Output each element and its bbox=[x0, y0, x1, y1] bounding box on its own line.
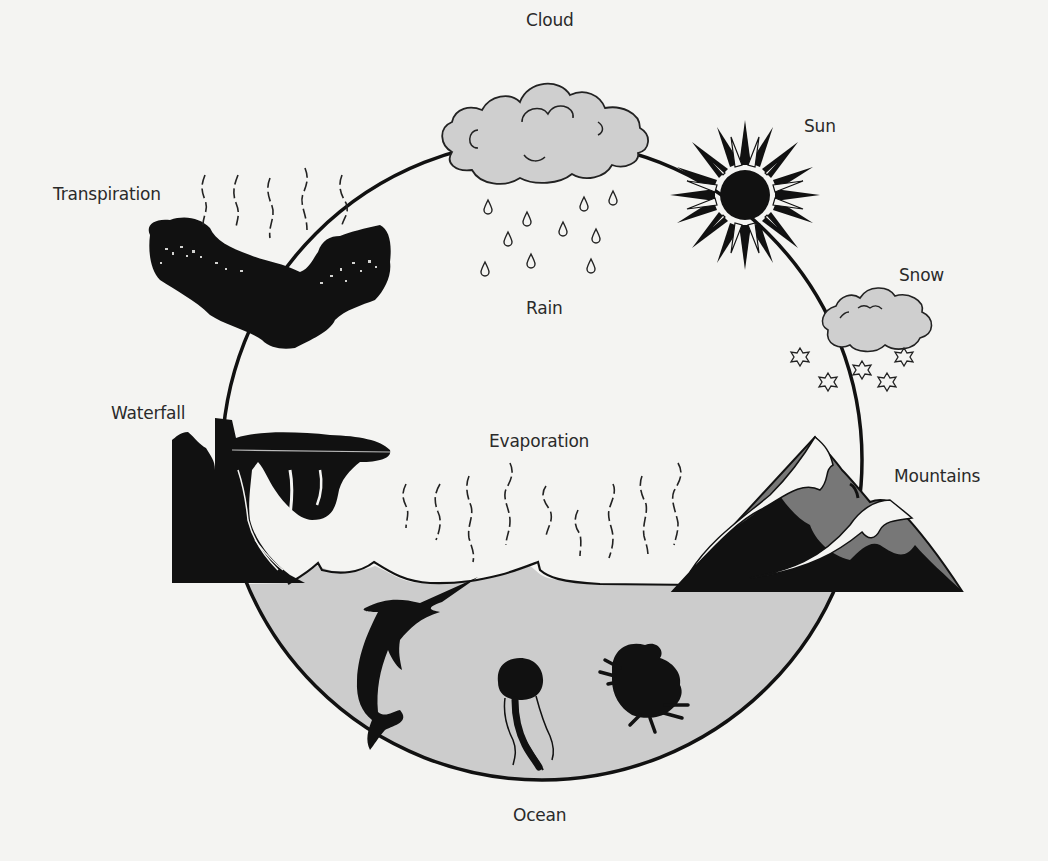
label-ocean: Ocean bbox=[513, 805, 566, 825]
waterfall-icon bbox=[172, 418, 390, 583]
rain-cloud-icon bbox=[442, 84, 648, 184]
sun-icon bbox=[670, 120, 820, 270]
transpiration-vapor-icon bbox=[202, 168, 347, 238]
mountains-icon bbox=[673, 437, 962, 591]
vapor-lines-icon bbox=[403, 463, 681, 562]
snow-cloud-icon bbox=[791, 288, 932, 391]
label-rain: Rain bbox=[526, 298, 563, 318]
label-cloud: Cloud bbox=[526, 10, 574, 30]
label-transpiration: Transpiration bbox=[53, 184, 161, 204]
label-mountains: Mountains bbox=[894, 466, 980, 486]
raindrops-icon bbox=[481, 191, 617, 276]
label-snow: Snow bbox=[899, 265, 944, 285]
label-sun: Sun bbox=[804, 116, 836, 136]
water-cycle-diagram: Cloud Sun Snow Rain Transpiration Waterf… bbox=[0, 0, 1048, 861]
label-evaporation: Evaporation bbox=[489, 431, 589, 451]
label-waterfall: Waterfall bbox=[111, 403, 185, 423]
